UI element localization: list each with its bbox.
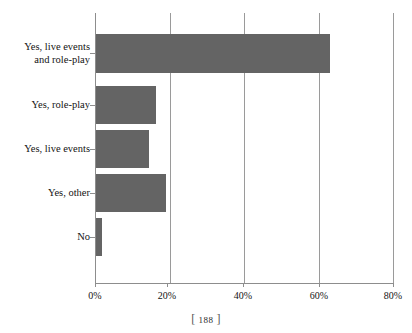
y-label-yes-other: Yes, other	[48, 187, 90, 200]
x-tick-label-60: 60%	[310, 290, 328, 301]
bar-yes-live-events	[95, 130, 149, 168]
footer-page-number: 188	[199, 315, 214, 325]
y-tick-mark	[90, 193, 95, 194]
bar-row	[95, 174, 393, 212]
bar-yes-other	[95, 174, 166, 212]
y-label-yes-live-events: Yes, live events	[24, 143, 90, 156]
x-axis-line	[95, 283, 394, 284]
bar-chart-figure: Yes, live events and role-play Yes, role…	[0, 0, 412, 333]
footer-bracket-close: ]	[216, 312, 221, 326]
bar-no	[95, 218, 102, 256]
y-label-yes-live-events-and-role-play: Yes, live events and role-play	[24, 41, 90, 66]
y-axis-line	[95, 13, 96, 284]
y-label-yes-role-play: Yes, role-play	[32, 99, 90, 112]
x-tick-label-20: 20%	[158, 290, 176, 301]
bar-yes-live-events-and-role-play	[95, 34, 330, 73]
x-tick-label-80: 80%	[384, 290, 402, 301]
y-label-no: No	[77, 231, 90, 244]
x-tick-mark-40	[243, 283, 244, 287]
gridline-80	[393, 13, 394, 283]
x-tick-mark-60	[319, 283, 320, 287]
y-tick-mark	[90, 105, 95, 106]
footer-bracket-open: [	[191, 312, 196, 326]
bar-yes-role-play	[95, 86, 156, 124]
plot-area	[95, 13, 393, 283]
x-tick-label-40: 40%	[234, 290, 252, 301]
x-tick-mark-20	[167, 283, 168, 287]
y-tick-mark	[90, 149, 95, 150]
bar-row	[95, 218, 393, 256]
page-footer: [ 188 ]	[0, 312, 412, 327]
y-tick-mark	[90, 53, 95, 54]
y-tick-mark	[90, 237, 95, 238]
bar-row	[95, 130, 393, 168]
bar-row	[95, 34, 393, 73]
bar-row	[95, 86, 393, 124]
x-tick-mark-80	[393, 283, 394, 287]
x-tick-label-0: 0%	[88, 290, 101, 301]
x-tick-mark-0	[95, 283, 96, 287]
